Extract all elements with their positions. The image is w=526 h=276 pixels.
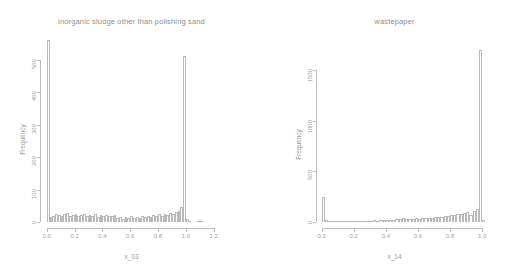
- y-tick-mark: [313, 70, 317, 71]
- y-tick-label: 200: [31, 156, 37, 176]
- chart-title: wastepaper: [263, 17, 526, 26]
- x-axis-title: x_03: [0, 253, 263, 260]
- x-tick-mark: [102, 228, 103, 232]
- chart-panel-inorganic-sludge: inorganic sludge other than polishing sa…: [0, 0, 263, 276]
- y-axis-line: [316, 70, 317, 222]
- y-tick-mark: [37, 60, 41, 61]
- bars-container: [320, 40, 487, 222]
- x-tick-label: 0.2: [342, 233, 366, 239]
- y-tick-mark: [37, 92, 41, 93]
- x-axis-title: x_14: [263, 253, 526, 260]
- x-tick-label: 0.6: [406, 233, 430, 239]
- y-tick-label: 300: [31, 124, 37, 144]
- x-tick-mark: [450, 228, 451, 232]
- chart-title: inorganic sludge other than polishing sa…: [0, 17, 263, 26]
- x-tick-mark: [418, 228, 419, 232]
- x-tick-mark: [322, 228, 323, 232]
- y-tick-mark: [313, 222, 317, 223]
- y-tick-mark: [37, 190, 41, 191]
- y-tick-label: 400: [31, 91, 37, 111]
- x-axis-line: [322, 228, 483, 229]
- y-axis-title: Frequency: [295, 115, 302, 175]
- y-tick-mark: [37, 125, 41, 126]
- x-tick-mark: [130, 228, 131, 232]
- x-tick-label: 0.2: [63, 233, 87, 239]
- histogram-bar: [200, 221, 203, 222]
- x-tick-label: 1.2: [202, 233, 226, 239]
- histogram-bar: [47, 40, 50, 222]
- x-tick-mark: [386, 228, 387, 232]
- histogram-bar: [189, 221, 192, 222]
- chart-panel-wastepaper: wastepaper 0.00.20.40.60.81.005001000150…: [263, 0, 526, 276]
- histogram-bar: [183, 56, 186, 222]
- histogram-bar: [322, 197, 325, 222]
- y-tick-label: 500: [307, 170, 313, 190]
- y-tick-label: 1000: [307, 120, 313, 140]
- x-tick-mark: [186, 228, 187, 232]
- x-tick-label: 0.8: [438, 233, 462, 239]
- y-axis-line: [40, 60, 41, 223]
- histogram-bar: [479, 50, 482, 222]
- y-tick-mark: [37, 157, 41, 158]
- histogram-bar: [482, 220, 485, 222]
- y-tick-label: 1500: [307, 69, 313, 89]
- x-tick-label: 0.4: [90, 233, 114, 239]
- x-tick-label: 0.0: [310, 233, 334, 239]
- x-tick-label: 0.4: [374, 233, 398, 239]
- x-tick-label: 1.0: [470, 233, 494, 239]
- bars-container: [44, 40, 222, 222]
- histogram-figure: inorganic sludge other than polishing sa…: [0, 0, 526, 276]
- x-tick-mark: [354, 228, 355, 232]
- x-tick-mark: [47, 228, 48, 232]
- y-tick-label: 500: [31, 59, 37, 79]
- x-tick-mark: [482, 228, 483, 232]
- x-tick-mark: [158, 228, 159, 232]
- y-tick-mark: [313, 121, 317, 122]
- y-axis-title: Frequency: [19, 109, 26, 169]
- x-tick-label: 1.0: [174, 233, 198, 239]
- y-tick-label: 100: [31, 189, 37, 209]
- y-tick-mark: [313, 171, 317, 172]
- x-tick-mark: [214, 228, 215, 232]
- y-tick-label: 0: [307, 221, 313, 241]
- x-tick-label: 0.0: [35, 233, 59, 239]
- x-tick-mark: [75, 228, 76, 232]
- x-tick-label: 0.8: [146, 233, 170, 239]
- x-tick-label: 0.6: [118, 233, 142, 239]
- y-tick-label: 0: [31, 221, 37, 241]
- y-tick-mark: [37, 222, 41, 223]
